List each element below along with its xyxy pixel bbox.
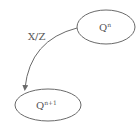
state-node-bottom: Qn+1 <box>15 89 81 121</box>
state-label-top: Qn <box>99 21 111 33</box>
transition-edge: X/Z <box>25 28 77 88</box>
state-node-top: Qn <box>77 10 135 44</box>
state-label-bottom: Qn+1 <box>36 99 57 111</box>
state-diagram: Qn Qn+1 X/Z <box>0 0 138 126</box>
transition-label: X/Z <box>28 31 45 42</box>
